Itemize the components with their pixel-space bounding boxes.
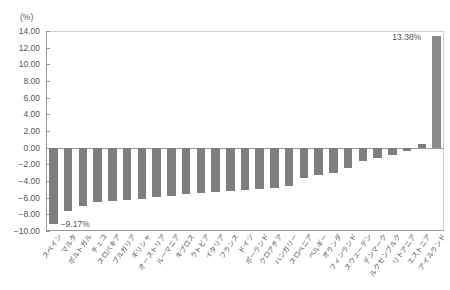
y-axis-tick-label: −6.00	[0, 193, 40, 203]
y-axis-tick-label: 2.00	[0, 126, 40, 136]
bar	[388, 148, 397, 155]
y-axis-tick-label: 4.00	[0, 109, 40, 119]
bar	[211, 148, 220, 193]
x-axis-category-labels: スペインマルタポルトガルチェコスロバキアブルガリアギリシャオーストリアルーマニア…	[46, 233, 444, 290]
y-axis-tick-label: −2.00	[0, 159, 40, 169]
bar	[79, 148, 88, 207]
bar-chart: (%) 14.0012.0010.008.006.004.002.000.00−…	[0, 0, 450, 290]
bar	[182, 148, 191, 195]
y-axis-tick-label: 12.00	[0, 43, 40, 53]
bar	[285, 148, 294, 186]
bar	[359, 148, 368, 161]
y-axis-tick-label: −8.00	[0, 209, 40, 219]
bar	[403, 148, 412, 152]
bar	[241, 148, 250, 191]
bar	[270, 148, 279, 188]
y-axis-tick-label: 0.00	[0, 143, 40, 153]
bar	[49, 148, 58, 224]
bar	[123, 148, 132, 201]
bar	[226, 148, 235, 191]
y-axis-tick-label: −4.00	[0, 176, 40, 186]
bar	[314, 148, 323, 176]
y-axis-tick-label: 8.00	[0, 76, 40, 86]
bar	[197, 148, 206, 194]
y-axis-tick-mark	[46, 231, 50, 232]
y-axis-tick-label: 14.00	[0, 26, 40, 36]
bar	[300, 148, 309, 178]
bar-value-label: −9.17%	[61, 219, 90, 229]
bar	[138, 148, 147, 200]
bar	[418, 144, 427, 147]
bar-value-label: 13.38%	[392, 32, 421, 42]
bar	[432, 36, 441, 148]
bar	[167, 148, 176, 196]
bar	[93, 148, 102, 203]
y-axis-unit-label: (%)	[20, 12, 33, 22]
y-axis-tick-label: 6.00	[0, 93, 40, 103]
bar	[255, 148, 264, 189]
bar	[329, 148, 338, 174]
y-axis-tick-label: 10.00	[0, 59, 40, 69]
bars-layer	[46, 31, 444, 231]
bar	[108, 148, 117, 201]
bar	[373, 148, 382, 158]
bar	[152, 148, 161, 197]
y-axis-tick-label: −10.00	[0, 226, 40, 236]
bar	[344, 148, 353, 168]
bar	[64, 148, 73, 211]
